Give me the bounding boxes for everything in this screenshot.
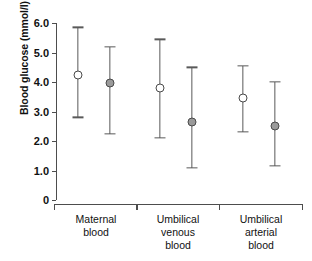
error-bar [109, 47, 110, 134]
error-bar-cap [105, 133, 116, 134]
y-axis-line [56, 23, 57, 200]
y-axis-tick-label: 5.0 [34, 47, 49, 59]
y-axis-tick-label: 2.0 [34, 135, 49, 147]
x-axis-group-label-line: blood [76, 226, 117, 239]
blood-glucose-chart: Blood glucose (mmol/l) 6.05.04.03.02.01.… [0, 0, 312, 261]
y-axis-tick [52, 141, 56, 142]
y-axis-tick [52, 23, 56, 24]
error-bar-cap [155, 137, 166, 138]
plot-area: 6.05.04.03.02.01.00 [56, 18, 306, 200]
x-axis-group-bracket [219, 204, 303, 210]
x-axis-group-bracket [54, 204, 138, 210]
data-point-filled-circle [188, 117, 197, 126]
x-axis-group-label-line: blood [157, 239, 200, 252]
y-axis-tick [52, 171, 56, 172]
x-axis-group-label: Umbilicalvenousblood [157, 213, 200, 252]
x-axis-group-label-line: Maternal [76, 213, 117, 226]
error-bar-cap [73, 27, 84, 28]
y-axis-tick-label: 3.0 [34, 106, 49, 118]
x-axis-group-label-line: Umbilical [157, 213, 200, 226]
error-bar-cap [187, 67, 198, 68]
data-point-open-circle [239, 94, 248, 103]
data-point-filled-circle [106, 79, 115, 88]
y-axis-tick [52, 53, 56, 54]
x-axis-group-label: Umbilicalarterialblood [240, 213, 283, 252]
y-axis-tick [52, 112, 56, 113]
error-bar-cap [187, 167, 198, 168]
data-point-filled-circle [271, 122, 280, 131]
x-axis-group-bracket [136, 204, 220, 210]
error-bar-cap [270, 165, 281, 166]
x-axis-group-label-line: Umbilical [240, 213, 283, 226]
y-axis-tick [52, 82, 56, 83]
data-point-open-circle [74, 70, 83, 79]
error-bar-cap [105, 46, 116, 47]
error-bar-cap [155, 39, 166, 40]
x-axis-group-label: Maternalblood [76, 213, 117, 239]
error-bar-cap [238, 65, 249, 66]
y-axis-tick-label: 6.0 [34, 17, 49, 29]
x-axis-group-label-line: arterial [240, 226, 283, 239]
y-axis-tick [52, 200, 56, 201]
data-point-open-circle [156, 83, 165, 92]
y-axis-tick-label: 0 [43, 194, 49, 206]
error-bar-cap [238, 131, 249, 132]
x-axis-group-label-line: blood [240, 239, 283, 252]
error-bar-cap [270, 81, 281, 82]
x-axis-group-label-line: venous [157, 226, 200, 239]
y-axis-title: Blood glucose (mmol/l) [18, 0, 30, 138]
y-axis-tick-label: 4.0 [34, 76, 49, 88]
y-axis-tick-label: 1.0 [34, 165, 49, 177]
error-bar-cap [73, 117, 84, 118]
